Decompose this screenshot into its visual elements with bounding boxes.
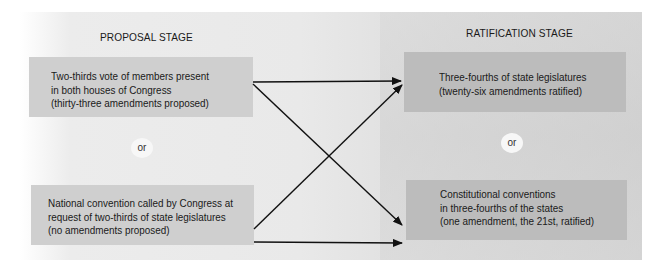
arrow-congress-to-conventions [253,84,402,225]
connection-arrows [0,0,658,263]
arrow-congress-to-legislatures [253,81,401,82]
arrow-convention-to-conventions [254,242,402,243]
